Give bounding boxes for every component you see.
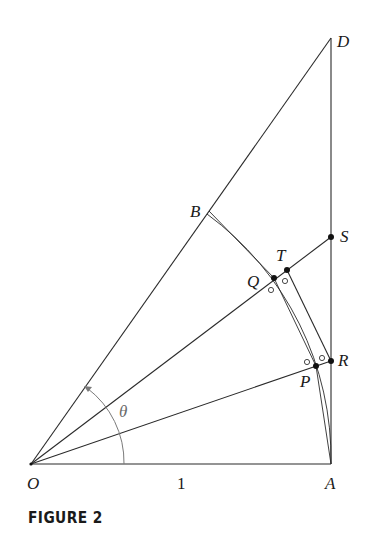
right-angle-marker-R bbox=[319, 355, 324, 360]
label-O: O bbox=[27, 474, 39, 493]
label-theta: θ bbox=[119, 402, 127, 421]
chord-BQ bbox=[209, 211, 274, 278]
right-angle-marker-Q bbox=[268, 287, 273, 292]
chord-QP bbox=[274, 278, 316, 366]
label-R: R bbox=[337, 351, 349, 370]
point-Q bbox=[271, 275, 277, 281]
label-unit-length: 1 bbox=[177, 474, 186, 493]
label-S: S bbox=[340, 227, 349, 246]
point-T bbox=[284, 267, 290, 273]
point-S bbox=[328, 234, 334, 240]
theta-arc bbox=[87, 388, 124, 464]
point-O bbox=[29, 462, 32, 465]
label-B: B bbox=[190, 202, 201, 221]
right-angle-marker-T bbox=[282, 278, 287, 283]
segment-OR bbox=[31, 361, 331, 464]
label-P: P bbox=[299, 372, 310, 391]
right-angle-marker-P bbox=[304, 359, 309, 364]
geometry-diagram: D B S T Q R P O A 1 θ bbox=[0, 0, 383, 535]
chord-PA bbox=[316, 366, 331, 464]
label-D: D bbox=[336, 32, 350, 51]
label-T: T bbox=[276, 246, 287, 265]
label-Q: Q bbox=[247, 272, 259, 291]
point-P bbox=[313, 363, 319, 369]
figure-caption: FIGURE 2 bbox=[28, 508, 103, 527]
point-R bbox=[328, 358, 334, 364]
label-A: A bbox=[324, 474, 336, 493]
segment-TR bbox=[287, 270, 331, 361]
segment-OD bbox=[31, 38, 331, 464]
